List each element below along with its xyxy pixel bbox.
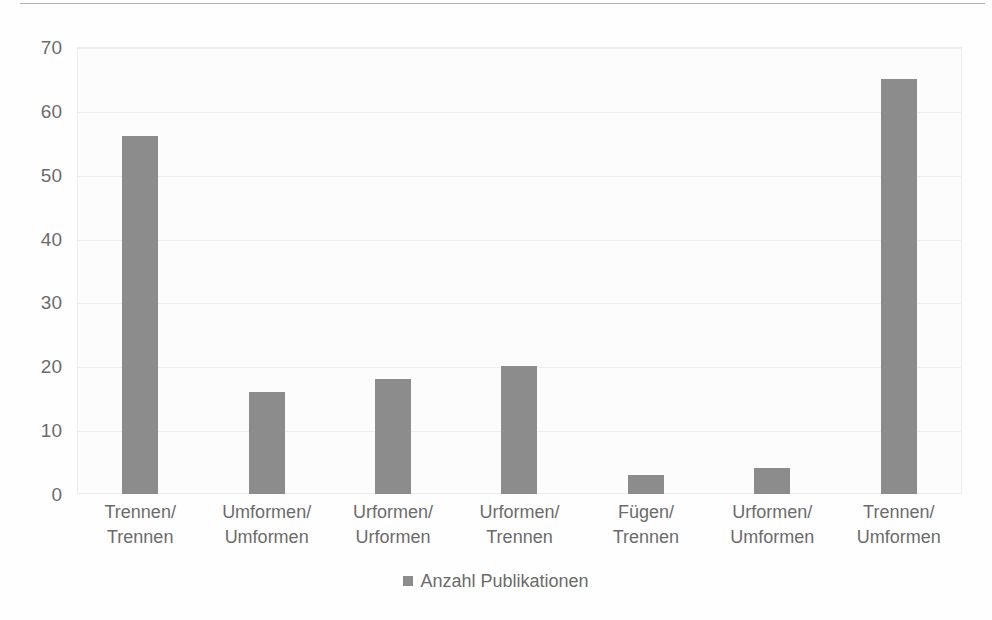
bars-layer (77, 47, 962, 494)
x-axis-category-label: Trennen/Umformen (836, 500, 962, 550)
x-axis-category-line: Umformen (836, 525, 962, 550)
bar-slot (330, 47, 456, 494)
x-axis-category-line: Trennen (456, 525, 582, 550)
x-axis-category-line: Umformen/ (203, 500, 329, 525)
x-axis-category-line: Urformen/ (456, 500, 582, 525)
x-axis-category-line: Umformen (203, 525, 329, 550)
x-axis-category-line: Urformen/ (330, 500, 456, 525)
y-axis-tick-label: 50 (41, 165, 62, 184)
chart-legend: Anzahl Publikationen (0, 572, 992, 590)
bar[interactable] (754, 468, 790, 494)
x-axis-category-label: Urformen/Umformen (709, 500, 835, 550)
bar-slot (709, 47, 835, 494)
bar-chart-figure: 706050403020100 Trennen/TrennenUmformen/… (0, 0, 992, 620)
bar[interactable] (501, 366, 537, 494)
x-axis-labels: Trennen/TrennenUmformen/UmformenUrformen… (77, 500, 962, 558)
y-axis-labels: 706050403020100 (0, 47, 62, 494)
y-axis-tick-label: 10 (41, 421, 62, 440)
bar[interactable] (122, 136, 158, 494)
x-axis-category-line: Trennen/ (836, 500, 962, 525)
y-axis-tick-label: 70 (41, 38, 62, 57)
y-axis-tick-label: 60 (41, 101, 62, 120)
bar[interactable] (249, 392, 285, 494)
y-axis-tick-label: 40 (41, 229, 62, 248)
x-axis-category-label: Fügen/ Trennen (583, 500, 709, 550)
bar[interactable] (375, 379, 411, 494)
bar-slot (456, 47, 582, 494)
legend-label: Anzahl Publikationen (420, 572, 588, 590)
bar-slot (203, 47, 329, 494)
x-axis-category-line: Trennen (77, 525, 203, 550)
x-axis-category-label: Trennen/Trennen (77, 500, 203, 550)
top-divider-rule (20, 3, 985, 4)
y-axis-tick-label: 0 (51, 485, 62, 504)
bar-slot (583, 47, 709, 494)
x-axis-category-label: Urformen/Trennen (456, 500, 582, 550)
y-axis-tick-label: 30 (41, 293, 62, 312)
legend-swatch-icon (403, 576, 413, 586)
x-axis-category-line: Urformen/ (709, 500, 835, 525)
x-axis-category-label: Urformen/Urformen (330, 500, 456, 550)
bar-slot (836, 47, 962, 494)
x-axis-category-line: Urformen (330, 525, 456, 550)
x-axis-category-label: Umformen/Umformen (203, 500, 329, 550)
x-axis-category-line: Fügen/ Trennen (583, 500, 709, 550)
y-axis-tick-label: 20 (41, 357, 62, 376)
x-axis-category-line: Trennen/ (77, 500, 203, 525)
bar[interactable] (881, 79, 917, 494)
bar[interactable] (628, 475, 664, 494)
x-axis-category-line: Umformen (709, 525, 835, 550)
bar-slot (77, 47, 203, 494)
